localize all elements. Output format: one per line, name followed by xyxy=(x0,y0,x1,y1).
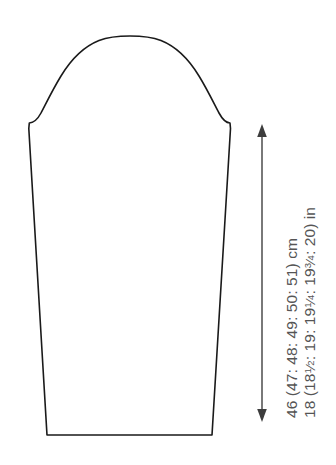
vertical-dimension-arrow xyxy=(257,124,267,422)
sleeve-schematic-diagram: 46 (47: 48: 49: 50: 51) cm 18 (181⁄2: 19… xyxy=(0,0,336,465)
sleeve-outline-shape xyxy=(29,36,231,435)
arrowhead-down-icon xyxy=(257,409,267,422)
schematic-canvas xyxy=(0,0,336,465)
arrowhead-up-icon xyxy=(257,124,267,137)
